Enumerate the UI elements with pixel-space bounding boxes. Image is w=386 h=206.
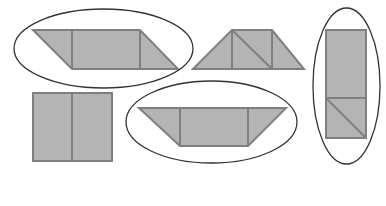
parallelogram-outline xyxy=(33,30,178,69)
vertical-rectangle-shape xyxy=(326,30,366,138)
parallelogram-shape xyxy=(33,30,178,69)
diagram-canvas xyxy=(0,0,386,206)
inverted-trapezoid-outline xyxy=(139,108,286,146)
shapes-layer xyxy=(33,30,366,161)
vertical-rectangle-outline xyxy=(326,30,366,138)
trapezoid-outline xyxy=(193,30,304,69)
square-shape xyxy=(33,93,112,161)
shapes-diagram xyxy=(0,0,386,206)
trapezoid-shape xyxy=(193,30,304,69)
inverted-trapezoid-shape xyxy=(139,108,286,146)
